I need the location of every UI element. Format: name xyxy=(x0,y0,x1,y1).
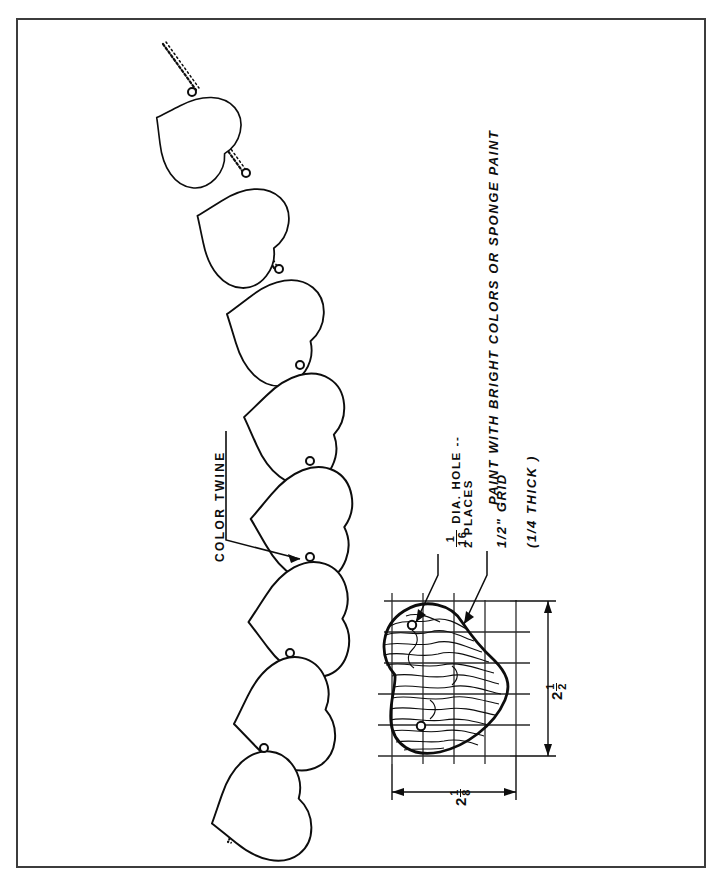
drawing-sheet: PAINT WITH BRIGHT COLORS OR SPONGE PAINT… xyxy=(0,0,727,883)
hole-note-text: DIA. HOLE -- xyxy=(450,436,462,524)
height-dimension xyxy=(510,601,556,756)
drawing-canvas xyxy=(0,0,727,883)
hole-leader xyxy=(416,554,438,622)
pattern-detail xyxy=(378,551,556,800)
grid-note: 1/2" GRID xyxy=(494,473,509,548)
hole-note-line-2: 2 PLACES xyxy=(462,479,474,548)
color-twine-label: COLOR TWINE xyxy=(213,450,227,562)
heart-1 xyxy=(135,76,251,198)
width-whole: 2 xyxy=(452,798,469,806)
width-fraction: 1 8 xyxy=(449,789,472,797)
height-dimension-text: 2 1 2 xyxy=(545,682,568,700)
heart-garland xyxy=(135,42,356,877)
pattern-hole-upper xyxy=(408,621,416,629)
height-fraction: 1 2 xyxy=(545,683,568,691)
thickness-note: (1/4 THICK ) xyxy=(524,455,539,548)
pattern-hole-lower xyxy=(417,722,425,730)
paint-note: PAINT WITH BRIGHT COLORS OR SPONGE PAINT xyxy=(486,129,501,505)
grid-leader xyxy=(464,551,487,624)
height-whole: 2 xyxy=(548,692,565,700)
width-dimension-text: 2 1 8 xyxy=(449,788,472,806)
